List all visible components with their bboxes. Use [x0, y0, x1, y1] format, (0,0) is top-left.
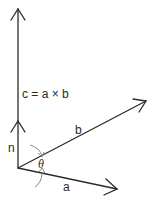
- label-b: b: [75, 123, 82, 137]
- cross-product-diagram: c = a × b b a n θ: [0, 0, 154, 204]
- arrowhead-icon: [133, 99, 146, 112]
- angle-arc-a: [35, 173, 42, 187]
- angle-arc-n-b: [30, 145, 42, 156]
- label-c: c = a × b: [22, 87, 69, 101]
- label-n: n: [8, 141, 15, 155]
- label-a: a: [63, 180, 70, 194]
- label-theta: θ: [38, 157, 44, 171]
